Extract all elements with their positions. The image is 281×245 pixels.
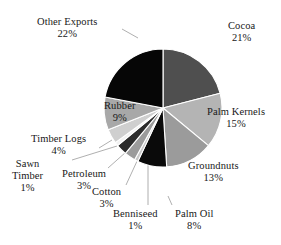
pie-label-timber-logs: Timber Logs4% bbox=[31, 133, 86, 157]
pie-label-name-groundnuts: Groundnuts bbox=[188, 160, 239, 172]
pie-label-name-benniseed: Benniseed bbox=[113, 208, 158, 220]
pie-label-palm-oil: Palm Oil8% bbox=[175, 208, 213, 232]
pie-label-name-palm-kernels: Palm Kernels bbox=[207, 106, 265, 118]
pie-label-cocoa: Cocoa21% bbox=[228, 20, 255, 44]
leader-line-palm-oil bbox=[168, 196, 172, 205]
pie-label-name-sawn-timber: Sawn Timber bbox=[12, 158, 43, 182]
pie-label-name-petroleum: Petroleum bbox=[62, 168, 106, 180]
pie-label-groundnuts: Groundnuts13% bbox=[188, 160, 239, 184]
pie-label-percent-timber-logs: 4% bbox=[31, 145, 86, 157]
leader-line-timber-logs bbox=[99, 140, 112, 148]
leader-line-petroleum bbox=[108, 152, 126, 168]
pie-label-name-other-exports: Other Exports bbox=[37, 16, 98, 28]
pie-label-percent-sawn-timber: 1% bbox=[12, 182, 43, 194]
pie-label-percent-palm-kernels: 15% bbox=[207, 118, 265, 130]
pie-label-percent-petroleum: 3% bbox=[62, 180, 106, 192]
pie-label-name-palm-oil: Palm Oil bbox=[175, 208, 213, 220]
pie-label-benniseed: Benniseed1% bbox=[113, 208, 158, 232]
pie-label-percent-groundnuts: 13% bbox=[188, 172, 239, 184]
pie-label-percent-cocoa: 21% bbox=[228, 32, 255, 44]
pie-label-percent-other-exports: 22% bbox=[37, 28, 98, 40]
pie-label-percent-rubber: 9% bbox=[104, 112, 136, 124]
pie-label-percent-palm-oil: 8% bbox=[175, 220, 213, 232]
pie-label-name-cocoa: Cocoa bbox=[228, 20, 255, 32]
pie-label-percent-benniseed: 1% bbox=[113, 220, 158, 232]
pie-label-petroleum: Petroleum3% bbox=[62, 168, 106, 192]
leader-line-other-exports bbox=[122, 29, 138, 38]
pie-label-other-exports: Other Exports22% bbox=[37, 16, 98, 40]
pie-label-sawn-timber: Sawn Timber1% bbox=[12, 158, 43, 193]
pie-label-rubber: Rubber9% bbox=[104, 100, 136, 124]
pie-chart: Cocoa21%Palm Kernels15%Groundnuts13%Palm… bbox=[0, 0, 281, 245]
pie-label-name-rubber: Rubber bbox=[104, 100, 136, 112]
pie-label-palm-kernels: Palm Kernels15% bbox=[207, 106, 265, 130]
pie-label-name-timber-logs: Timber Logs bbox=[31, 133, 86, 145]
pie-label-percent-cotton: 3% bbox=[92, 198, 121, 210]
leader-line-cotton bbox=[126, 159, 138, 185]
